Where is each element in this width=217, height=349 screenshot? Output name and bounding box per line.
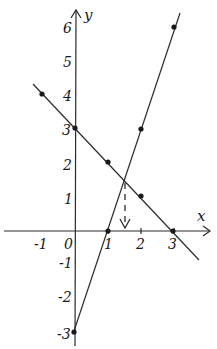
data-point: [71, 329, 76, 334]
graph-canvas: x y 0 -1 1 2 3 6 5 4 3 2 1 -1 -2 -3: [0, 0, 217, 349]
increasing-line: [73, 13, 180, 334]
decreasing-line: [33, 84, 199, 260]
y-tick-label: -3: [57, 326, 71, 342]
origin-label: 0: [64, 236, 73, 252]
x-tick-label: -1: [34, 236, 48, 252]
data-point: [170, 228, 175, 233]
data-point: [72, 125, 77, 130]
data-point: [138, 193, 143, 198]
y-tick-label: 1: [64, 191, 73, 207]
y-tick-label: -1: [59, 255, 73, 271]
x-axis-label: x: [197, 207, 206, 225]
y-tick-labels: 6 5 4 3 2 1 -1 -2 -3: [57, 20, 73, 342]
data-point: [171, 24, 176, 29]
y-tick-label: 4: [62, 88, 72, 104]
y-tick-label: -2: [58, 289, 72, 305]
x-tick-label: 3: [168, 236, 177, 252]
x-tick-label: 2: [135, 236, 145, 252]
x-tick-labels: -1 1 2 3: [34, 236, 177, 252]
data-point: [105, 228, 110, 233]
y-tick-label: 2: [62, 157, 72, 173]
y-tick-label: 5: [63, 54, 72, 70]
data-point: [39, 91, 44, 96]
data-point: [138, 126, 143, 131]
y-tick-label: 3: [62, 122, 71, 138]
data-point: [105, 159, 110, 164]
y-axis: [75, 10, 76, 346]
axes: [4, 10, 210, 346]
y-axis-label: y: [83, 6, 93, 24]
y-tick-label: 6: [63, 20, 72, 36]
